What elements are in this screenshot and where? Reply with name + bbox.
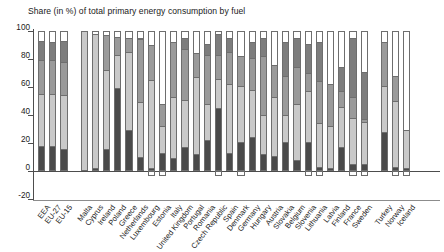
bar-segment-renewables (170, 31, 177, 42)
bar-segment-nuclear (293, 38, 300, 67)
bar-segment-oil (249, 90, 256, 138)
bar-segment-renewables (392, 31, 399, 76)
bar-italy[interactable] (170, 31, 177, 171)
bar-segment-gas (249, 58, 256, 90)
bar-slovakia[interactable] (282, 31, 289, 171)
bar-segment-renewables (49, 31, 56, 42)
bar-segment-gas (137, 39, 144, 102)
bar-segment-gas (338, 91, 345, 106)
bar-segment-gas (125, 38, 132, 52)
bar-segment-gas (271, 65, 278, 97)
bar-czech-republic[interactable] (215, 31, 222, 171)
net-import-marker (148, 171, 155, 176)
bar-finland[interactable] (338, 31, 345, 171)
bar-segment-solid-fuels (226, 153, 233, 171)
bar-segment-gas (215, 55, 222, 79)
bar-segment-renewables (181, 31, 188, 38)
bar-segment-oil (137, 102, 144, 157)
y-tick-label: -20 (18, 195, 30, 196)
bar-segment-oil (49, 94, 56, 146)
bar-slovenia[interactable] (305, 31, 312, 171)
bar-segment-solid-fuels (181, 147, 188, 171)
bar-segment-nuclear (204, 44, 211, 55)
bar-netherlands[interactable] (137, 31, 144, 171)
bar-segment-renewables (282, 31, 289, 42)
bar-segment-nuclear (349, 38, 356, 97)
bar-estonia[interactable] (159, 31, 166, 171)
bar-segment-renewables (226, 31, 233, 38)
bar-segment-oil (148, 80, 155, 168)
bar-spain[interactable] (226, 31, 233, 171)
bar-segment-gas (237, 56, 244, 85)
bar-segment-renewables (293, 31, 300, 38)
bar-segment-nuclear (338, 67, 345, 91)
bar-segment-solid-fuels (49, 146, 56, 171)
bar-segment-nuclear (282, 42, 289, 76)
bar-segment-gas (49, 60, 56, 94)
bar-segment-oil (125, 52, 132, 130)
bar-luxembourg[interactable] (148, 31, 155, 171)
x-axis-bottom-line (33, 200, 440, 201)
bar-segment-oil (215, 79, 222, 108)
bar-hungary[interactable] (260, 31, 267, 171)
bar-segment-solid-fuels (381, 132, 388, 171)
net-import-marker (237, 171, 244, 176)
net-import-marker (215, 171, 222, 176)
bar-segment-renewables (349, 31, 356, 38)
bar-eu-15[interactable] (60, 31, 67, 171)
bar-segment-oil (60, 95, 67, 148)
bar-turkey[interactable] (381, 31, 388, 171)
bar-austria[interactable] (271, 31, 278, 171)
bar-segment-solid-fuels (349, 164, 356, 171)
bar-segment-gas (159, 104, 166, 126)
bar-segment-renewables (204, 31, 211, 44)
bar-latvia[interactable] (327, 31, 334, 171)
net-import-marker (159, 171, 166, 176)
bar-segment-nuclear (249, 42, 256, 57)
bar-segment-oil (349, 118, 356, 164)
bar-segment-gas (293, 67, 300, 103)
bar-cyprus[interactable] (92, 31, 99, 171)
bar-iceland[interactable] (403, 31, 410, 171)
bar-segment-renewables (338, 31, 345, 67)
bar-poland[interactable] (114, 31, 121, 171)
bar-segment-gas (327, 84, 334, 126)
bar-belgium[interactable] (293, 31, 300, 171)
bar-segment-oil (159, 126, 166, 153)
bar-greece[interactable] (125, 31, 132, 171)
bar-united-kingdom[interactable] (181, 31, 188, 171)
net-import-marker (392, 171, 399, 176)
y-tick-label: 80 (21, 55, 30, 56)
bar-segment-oil (237, 86, 244, 142)
bar-eea[interactable] (38, 31, 45, 171)
bar-segment-solid-fuels (92, 168, 99, 171)
bar-segment-solid-fuels (170, 158, 177, 171)
bar-segment-oil (316, 123, 323, 166)
bar-lithuania[interactable] (316, 31, 323, 171)
bar-norway[interactable] (392, 31, 399, 171)
bar-germany[interactable] (249, 31, 256, 171)
bar-segment-gas (193, 53, 200, 77)
bar-portugal[interactable] (193, 31, 200, 171)
bar-denmark[interactable] (237, 31, 244, 171)
bar-ireland[interactable] (103, 31, 110, 171)
bar-eu-27[interactable] (49, 31, 56, 171)
bar-romania[interactable] (204, 31, 211, 171)
bar-segment-solid-fuels (282, 142, 289, 171)
bar-segment-renewables (38, 31, 45, 41)
bar-segment-renewables (316, 31, 323, 42)
bar-segment-nuclear (49, 42, 56, 60)
bar-sweden[interactable] (361, 31, 368, 171)
y-tick-label: 40 (21, 111, 30, 112)
bar-segment-solid-fuels (215, 108, 222, 171)
bar-france[interactable] (349, 31, 356, 171)
bar-segment-renewables (215, 31, 222, 34)
bar-segment-gas (60, 62, 67, 96)
bar-segment-renewables (237, 31, 244, 56)
bar-segment-gas (260, 56, 267, 115)
bar-segment-solid-fuels (293, 160, 300, 171)
bar-segment-solid-fuels (305, 142, 312, 171)
bar-malta[interactable] (81, 31, 88, 171)
bar-segment-renewables (92, 31, 99, 34)
bar-segment-solid-fuels (237, 142, 244, 171)
